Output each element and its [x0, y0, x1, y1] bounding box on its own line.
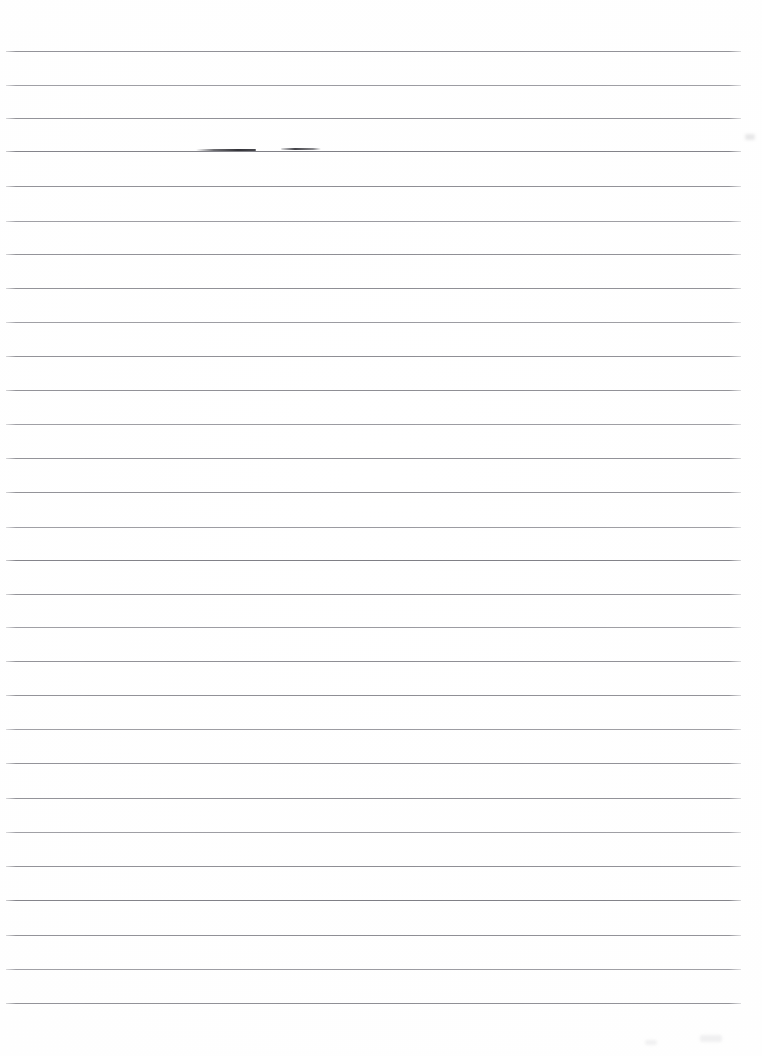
ruled-line	[6, 661, 741, 662]
ruled-line	[6, 695, 741, 696]
ruled-line	[6, 935, 741, 936]
ruled-line	[6, 221, 741, 222]
ruled-line	[6, 458, 741, 459]
ruled-line	[6, 390, 741, 391]
smudge-bottom-right	[700, 1035, 722, 1042]
ruled-line	[6, 288, 741, 289]
ruled-line	[6, 627, 741, 628]
ruled-line	[6, 866, 741, 867]
ruled-line	[6, 969, 741, 970]
ruled-line	[6, 254, 741, 255]
smudge-bottom-far-right	[645, 1040, 657, 1045]
ruled-line	[6, 763, 741, 764]
ruled-line	[6, 322, 741, 323]
ruled-line	[6, 900, 741, 901]
ruled-line	[6, 85, 741, 86]
ruled-line	[6, 151, 741, 152]
ruled-line	[6, 527, 741, 528]
stroke-left	[196, 149, 256, 151]
ruled-line	[6, 118, 741, 119]
ruled-line	[6, 51, 741, 52]
scanned-page	[0, 0, 762, 1056]
stroke-right	[281, 148, 321, 150]
ruled-line	[6, 729, 741, 730]
ruled-line	[6, 1003, 741, 1004]
ruled-line	[6, 798, 741, 799]
ruled-line	[6, 186, 741, 187]
ruled-line	[6, 492, 741, 493]
ruled-line	[6, 594, 741, 595]
smudge-right-upper	[745, 134, 755, 140]
ruled-line-layer	[0, 0, 762, 1056]
ruled-line	[6, 356, 741, 357]
ruled-line	[6, 832, 741, 833]
ruled-line	[6, 424, 741, 425]
ruled-line	[6, 560, 741, 561]
